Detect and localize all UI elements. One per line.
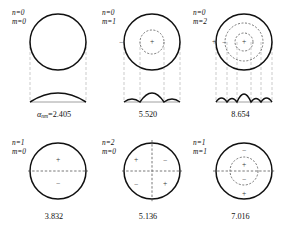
mode-index-label-4: n=1 m=0 <box>12 138 26 156</box>
mode-value-1: 2.405 <box>53 110 71 119</box>
mode-panel-3: n=0 m=2 + − + 8.654 <box>193 6 288 128</box>
mode-index-label-3: n=0 m=2 <box>193 8 207 26</box>
mode-index-label-2: n=0 m=1 <box>102 8 116 26</box>
sign-marker: − <box>239 176 249 184</box>
sign-marker: + <box>209 38 219 46</box>
sign-marker: − <box>219 39 229 47</box>
sign-marker: − <box>160 157 170 165</box>
amplitude-profile-1 <box>30 93 86 102</box>
membrane-diagram-3 <box>193 6 288 110</box>
sign-marker: + <box>131 156 141 164</box>
sign-marker: − <box>116 39 126 47</box>
n-label-2: n=0 <box>102 8 114 17</box>
mode-panel-6: n=1 m=1 − + − + 7.016 <box>193 136 288 236</box>
mode-value-5: 5.136 <box>139 212 157 221</box>
mode-panel-4: n=1 m=0 + − 3.832 <box>8 136 100 236</box>
sign-marker: + <box>239 190 249 198</box>
mode-caption-1: αnm=2.405 <box>8 110 100 119</box>
m-label-5: m=0 <box>102 147 116 156</box>
n-label-3: n=0 <box>193 8 205 17</box>
n-label-4: n=1 <box>12 138 24 147</box>
mode-index-label-5: n=2 m=0 <box>102 138 116 156</box>
sign-marker: + <box>239 38 249 46</box>
m-label-3: m=2 <box>193 17 207 26</box>
m-label-6: m=1 <box>193 147 207 156</box>
sign-marker: + <box>147 38 157 46</box>
mode-caption-6: 7.016 <box>193 212 288 221</box>
mode-caption-3: 8.654 <box>193 110 288 119</box>
mode-value-2: 5.520 <box>139 110 157 119</box>
sign-marker: + <box>239 161 249 169</box>
sign-marker: − <box>131 181 141 189</box>
sign-marker: + <box>53 156 63 164</box>
sign-marker: + <box>160 180 170 188</box>
n-label-1: n=0 <box>12 8 24 17</box>
n-label-6: n=1 <box>193 138 205 147</box>
mode-index-label-6: n=1 m=1 <box>193 138 207 156</box>
mode-panel-2: n=0 m=1 − + 5.520 <box>102 6 194 128</box>
amplitude-profile-3 <box>216 94 272 102</box>
sign-marker: − <box>53 180 63 188</box>
mode-panel-1: n=0 m=0 αnm=2.405 <box>8 6 100 128</box>
amplitude-profile-2 <box>124 93 180 102</box>
mode-value-3: 8.654 <box>231 110 249 119</box>
m-label-4: m=0 <box>12 147 26 156</box>
n-label-5: n=2 <box>102 138 114 147</box>
mode-value-4: 3.832 <box>45 212 63 221</box>
mode-index-label-1: n=0 m=0 <box>12 8 26 26</box>
mode-caption-4: 3.832 <box>8 212 100 221</box>
mode-value-6: 7.016 <box>231 212 249 221</box>
membrane-boundary-circle-1 <box>30 14 86 70</box>
sign-marker: − <box>239 147 249 155</box>
m-label-2: m=1 <box>102 17 116 26</box>
bessel-modes-figure: n=0 m=0 αnm=2.405 n=0 m=1 <box>0 0 295 242</box>
mode-panel-5: n=2 m=0 + − − + 5.136 <box>102 136 194 236</box>
m-label-1: m=0 <box>12 17 26 26</box>
mode-caption-5: 5.136 <box>102 212 194 221</box>
mode-caption-2: 5.520 <box>102 110 194 119</box>
